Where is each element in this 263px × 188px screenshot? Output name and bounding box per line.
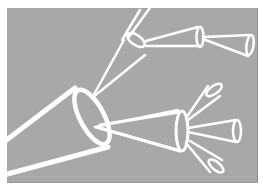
lower-bottom-spoke-cone-icon [186, 141, 225, 175]
large-cone-icon [0, 85, 117, 176]
lower-top-spoke-cone-icon [186, 82, 224, 120]
upper-right-cone-icon [203, 35, 255, 56]
branching-cones-illustration [0, 0, 263, 188]
lower-middle-spoke-cone-icon [188, 120, 241, 142]
lower-cone-icon [100, 111, 188, 151]
upper-cone-icon [122, 5, 152, 50]
upper-rays-icon [92, 40, 145, 98]
upper-middle-cone-icon [146, 27, 204, 47]
